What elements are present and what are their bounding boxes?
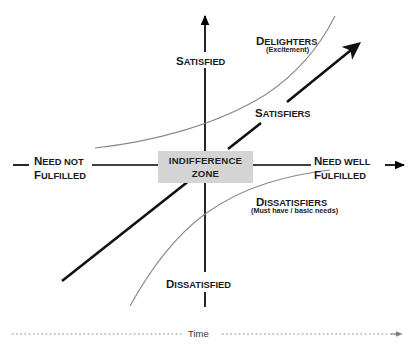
curve-label-satisfiers-lead: S xyxy=(255,107,263,119)
need-not-fulfilled-line2-rest: ULFILLED xyxy=(41,171,86,181)
curve-label-satisfiers: SATISFIERS xyxy=(255,104,311,121)
satisfiers-line-mid xyxy=(228,123,261,149)
curve-sublabel-delighters: (Excitement) xyxy=(266,45,309,54)
axis-label-need-well-fulfilled-line2: FULFILLED xyxy=(314,166,366,183)
need-well-fulfilled-line2-rest: ULFILLED xyxy=(321,171,366,181)
indifference-zone-line2: ZONE xyxy=(158,167,253,180)
satisfiers-line-upper xyxy=(287,46,356,102)
axis-label-need-not-fulfilled-line2: FULFILLED xyxy=(34,166,86,183)
indifference-zone-line1: INDIFFERENCE xyxy=(158,154,253,167)
curve-label-satisfiers-rest: ATISFIERS xyxy=(263,109,311,119)
axis-label-dissatisfied: DISSATISFIED xyxy=(166,275,231,292)
time-axis-label: Time xyxy=(188,328,209,339)
kano-model-diagram: INDIFFERENCE ZONE SATISFIED DISSATISFIED… xyxy=(0,0,409,347)
axis-label-dissatisfied-rest: ISSATISFIED xyxy=(174,280,231,290)
satisfiers-line-lower xyxy=(62,180,190,281)
need-not-fulfilled-line2-lead: F xyxy=(34,169,41,181)
axis-label-satisfied: SATISFIED xyxy=(176,52,225,69)
need-well-fulfilled-line2-lead: F xyxy=(314,169,321,181)
curve-sublabel-dissatisfiers: (Must have / basic needs) xyxy=(251,206,338,215)
axis-label-satisfied-lead: S xyxy=(176,55,184,67)
axis-label-satisfied-rest: ATISFIED xyxy=(184,57,226,67)
